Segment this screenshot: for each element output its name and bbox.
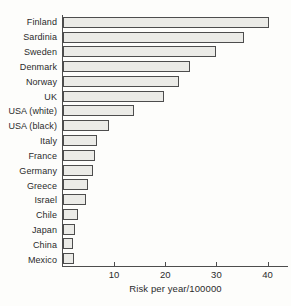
bar bbox=[63, 76, 179, 87]
category-label: Greece bbox=[0, 178, 62, 193]
plot-area bbox=[62, 15, 288, 267]
category-label: France bbox=[0, 148, 62, 163]
bar-row bbox=[63, 251, 288, 266]
category-label: Sardinia bbox=[0, 30, 62, 45]
category-label: Germany bbox=[0, 163, 62, 178]
category-label: Finland bbox=[0, 15, 62, 30]
bar-row bbox=[63, 59, 288, 74]
bar-row bbox=[63, 163, 288, 178]
category-label: Sweden bbox=[0, 45, 62, 60]
bar-row bbox=[63, 177, 288, 192]
bar bbox=[63, 179, 88, 190]
category-labels: FinlandSardiniaSwedenDenmarkNorwayUKUSA … bbox=[0, 15, 62, 267]
bar-row bbox=[63, 15, 288, 30]
bar bbox=[63, 150, 95, 161]
bar-row bbox=[63, 236, 288, 251]
chart-body: FinlandSardiniaSwedenDenmarkNorwayUKUSA … bbox=[0, 15, 288, 267]
bar bbox=[63, 120, 109, 131]
bar bbox=[63, 61, 190, 72]
bar-row bbox=[63, 89, 288, 104]
x-tick-labels: 10203040 bbox=[63, 269, 288, 281]
bar-row bbox=[63, 207, 288, 222]
category-label: Denmark bbox=[0, 59, 62, 74]
x-tick bbox=[114, 262, 115, 266]
category-label: Norway bbox=[0, 74, 62, 89]
x-tick bbox=[165, 262, 166, 266]
category-label: Israel bbox=[0, 193, 62, 208]
bar bbox=[63, 238, 73, 249]
category-label: USA (black) bbox=[0, 119, 62, 134]
bar bbox=[63, 17, 269, 28]
category-label: Chile bbox=[0, 208, 62, 223]
risk-per-year-bar-chart: FinlandSardiniaSwedenDenmarkNorwayUKUSA … bbox=[0, 0, 291, 306]
category-label: China bbox=[0, 237, 62, 252]
x-tick-label: 40 bbox=[262, 269, 273, 280]
bar bbox=[63, 165, 93, 176]
x-tick-label: 20 bbox=[160, 269, 171, 280]
x-axis-title: Risk per year/100000 bbox=[63, 283, 288, 294]
bar bbox=[63, 194, 86, 205]
bar-row bbox=[63, 45, 288, 60]
category-label: Japan bbox=[0, 223, 62, 238]
bar bbox=[63, 32, 244, 43]
bar bbox=[63, 224, 75, 235]
bar-row bbox=[63, 192, 288, 207]
category-label: Mexico bbox=[0, 252, 62, 267]
bar-row bbox=[63, 133, 288, 148]
bar-row bbox=[63, 222, 288, 237]
category-label: UK bbox=[0, 89, 62, 104]
bar-row bbox=[63, 30, 288, 45]
bar-row bbox=[63, 118, 288, 133]
bar bbox=[63, 46, 216, 57]
bar bbox=[63, 91, 164, 102]
bar-row bbox=[63, 104, 288, 119]
bar bbox=[63, 253, 74, 264]
bar-row bbox=[63, 148, 288, 163]
x-tick-label: 30 bbox=[211, 269, 222, 280]
bar bbox=[63, 209, 78, 220]
x-tick bbox=[268, 262, 269, 266]
x-tick-label: 10 bbox=[109, 269, 120, 280]
x-tick bbox=[216, 262, 217, 266]
bar-row bbox=[63, 74, 288, 89]
bar bbox=[63, 105, 134, 116]
category-label: Italy bbox=[0, 134, 62, 149]
category-label: USA (white) bbox=[0, 104, 62, 119]
bar bbox=[63, 135, 97, 146]
